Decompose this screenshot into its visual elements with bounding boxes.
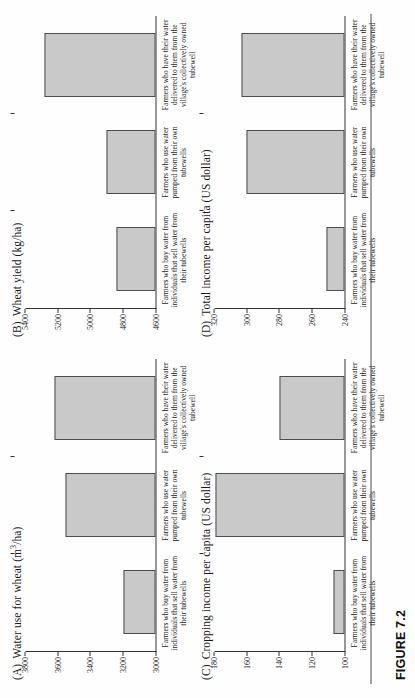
panel-d: (D)Total income per capita (US dollar) 2… [199, 16, 386, 339]
panel-d-bar-2 [246, 130, 344, 194]
panel-d-y-tick-label: 240 [341, 314, 349, 326]
panel-c-y-tick-mark [344, 652, 345, 656]
panel-c-plot-area [214, 359, 346, 652]
scanned-figure-page: (A)Water use for wheat (m3/ha) 300032003… [0, 0, 415, 698]
panel-a-category-3: Farmers who have their water delivered t… [161, 359, 197, 457]
panel-d-bar-1 [326, 227, 344, 291]
panel-c-y-axis: 100120140160180 [214, 652, 346, 682]
panel-a-category-labels: Farmers who buy water from individuals t… [161, 359, 197, 652]
panel-c-bar-1 [333, 570, 344, 634]
panel-d-y-tick-label: 280 [275, 314, 283, 326]
panel-c-y-tick-mark [246, 652, 247, 656]
panel-b-category-labels: Farmers who buy water from individuals t… [161, 16, 197, 309]
panel-b-y-tick-label: 4600 [152, 314, 160, 330]
panel-a-y-tick-label: 3600 [54, 657, 62, 673]
panel-c-y-tick-label: 120 [308, 657, 316, 669]
panel-a-bar-2 [65, 473, 155, 537]
panel-d-y-tick-mark [278, 309, 279, 313]
panel-c-y-tick-mark [278, 652, 279, 656]
panel-c: (C)Cropping income per capita (US dollar… [199, 359, 386, 682]
panel-a-y-tick-label: 3000 [152, 657, 160, 673]
panel-c-bar-2 [215, 473, 344, 537]
panel-a-y-tick-mark [122, 652, 123, 656]
panel-a-y-tick-label: 3200 [119, 657, 127, 673]
panel-a: (A)Water use for wheat (m3/ha) 300032003… [10, 359, 197, 682]
panel-a-y-tick-mark [57, 652, 58, 656]
panel-d-y-tick-label: 300 [243, 314, 251, 326]
panel-b-bar-3 [44, 33, 155, 97]
panel-c-category-1: Farmers who buy water from individuals t… [350, 554, 386, 652]
panel-b-plot-area [25, 16, 157, 309]
panel-a-title: (A)Water use for wheat (m3/ha) [10, 359, 23, 680]
panel-b-y-tick-label: 5200 [54, 314, 62, 330]
panel-a-y-tick-mark [155, 652, 156, 656]
panel-c-y-tick-mark [311, 652, 312, 656]
panel-a-y-axis: 30003200340036003800 [25, 652, 157, 682]
page-divider-rule [370, 14, 371, 684]
panel-b: (B)Wheat yield (kg/ha) 46004800500052005… [10, 16, 197, 339]
panel-b-y-tick-label: 5400 [21, 314, 29, 330]
panel-c-y-tick-label: 180 [210, 657, 218, 669]
panel-a-title-superscript: 3 [8, 545, 17, 549]
panel-c-y-tick-label: 100 [341, 657, 349, 669]
panel-b-y-tick-mark [89, 309, 90, 313]
panel-a-y-tick-mark [24, 652, 25, 656]
panel-b-y-tick-mark [24, 309, 25, 313]
panel-a-category-2: Farmers who use water pumped from their … [161, 457, 197, 555]
panel-d-y-axis: 240260280300320 [214, 309, 346, 339]
panel-d-y-tick-mark [311, 309, 312, 313]
panel-b-category-2: Farmers who use water pumped from their … [161, 114, 197, 212]
panel-d-title: (D)Total income per capita (US dollar) [199, 16, 212, 337]
panel-b-bar-2 [106, 130, 155, 194]
panel-c-title-text: Cropping income per capita (US dollar) [199, 473, 211, 660]
panel-a-title-text: Water use for wheat (m [10, 549, 22, 659]
panel-d-category-labels: Farmers who buy water from individuals t… [350, 16, 386, 309]
panel-b-bar-1 [116, 227, 155, 291]
panel-a-y-tick-mark [89, 652, 90, 656]
panel-a-y-tick-label: 3400 [86, 657, 94, 673]
panel-d-category-2: Farmers who use water pumped from their … [350, 114, 386, 212]
panel-d-y-tick-mark [213, 309, 214, 313]
panel-b-y-tick-label: 5000 [86, 314, 94, 330]
panel-b-y-tick-mark [122, 309, 123, 313]
panel-c-category-2: Farmers who use water pumped from their … [350, 457, 386, 555]
panel-b-title-text: Wheat yield (kg/ha) [10, 222, 22, 316]
figure-caption: FIGURE 7.2 [386, 16, 409, 682]
panel-a-title-tail: /ha) [10, 527, 22, 545]
panel-d-y-tick-mark [344, 309, 345, 313]
panel-d-y-tick-label: 260 [308, 314, 316, 326]
panel-c-y-tick-mark [213, 652, 214, 656]
panel-d-title-text: Total income per capita (US dollar) [199, 149, 211, 316]
panel-b-y-tick-mark [57, 309, 58, 313]
panel-a-bar-1 [123, 570, 156, 634]
panel-c-bar-3 [279, 376, 344, 440]
panel-b-y-tick-mark [155, 309, 156, 313]
panel-c-category-3: Farmers who have their water delivered t… [350, 359, 386, 457]
panel-a-category-1: Farmers who buy water from individuals t… [161, 554, 197, 652]
panel-c-title: (C)Cropping income per capita (US dollar… [199, 359, 212, 680]
panel-b-category-1: Farmers who buy water from individuals t… [161, 211, 197, 309]
panel-d-y-tick-mark [246, 309, 247, 313]
panel-c-y-tick-label: 160 [243, 657, 251, 669]
figure-panel-grid: (A)Water use for wheat (m3/ha) 300032003… [10, 16, 386, 682]
panel-c-category-labels: Farmers who buy water from individuals t… [350, 359, 386, 652]
panel-a-y-tick-label: 3800 [21, 657, 29, 673]
panel-b-y-axis: 46004800500052005400 [25, 309, 157, 339]
panel-d-plot-area [214, 16, 346, 309]
panel-d-category-1: Farmers who buy water from individuals t… [350, 211, 386, 309]
panel-d-y-tick-label: 320 [210, 314, 218, 326]
panel-a-bar-3 [54, 376, 155, 440]
panel-b-category-3: Farmers who have their water delivered t… [161, 16, 197, 114]
panel-d-bar-3 [241, 33, 344, 97]
panel-b-y-tick-label: 4800 [119, 314, 127, 330]
panel-a-plot-area [25, 359, 157, 652]
panel-b-title: (B)Wheat yield (kg/ha) [10, 16, 23, 337]
panel-c-y-tick-label: 140 [275, 657, 283, 669]
panel-d-category-3: Farmers who have their water delivered t… [350, 16, 386, 114]
